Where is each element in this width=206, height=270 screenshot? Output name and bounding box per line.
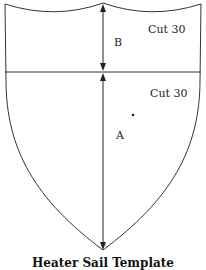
dimension-b-arrow <box>100 4 106 71</box>
diagram-caption: Heater Sail Template <box>0 256 206 270</box>
label-cut-top: Cut 30 <box>148 23 185 36</box>
label-b: B <box>114 36 122 49</box>
center-dot <box>132 114 135 117</box>
label-a: A <box>115 129 125 142</box>
dimension-a-arrow <box>100 73 106 250</box>
label-cut-bottom: Cut 30 <box>150 87 187 100</box>
